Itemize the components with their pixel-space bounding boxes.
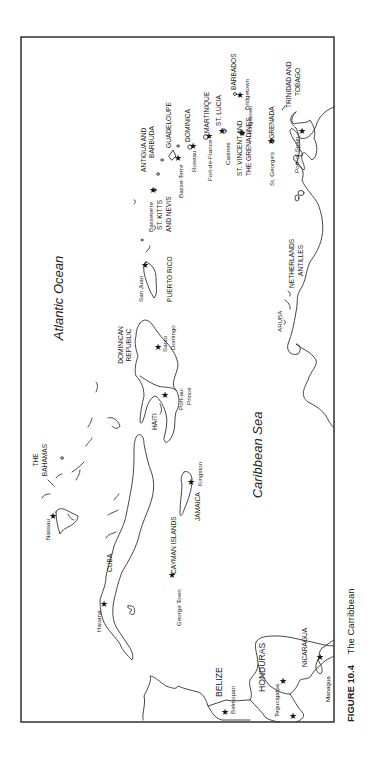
city-label-george-town: George Town (175, 589, 182, 626)
haiti-dr-border (140, 376, 176, 390)
island (56, 474, 62, 478)
island (298, 191, 304, 196)
country-label-puerto-rico: PUERTO RICO (166, 256, 173, 302)
figure-label: FIGURE 10.4 (345, 664, 356, 722)
city-label-managua: Managua (324, 676, 331, 702)
island (177, 145, 179, 147)
island (76, 470, 80, 480)
city-label-basseterre: Basseterre (147, 202, 154, 232)
country-label-guadeloupe: GUADELOUPE (165, 102, 172, 148)
star-icon: ★ (161, 390, 169, 400)
atlantic-ocean-label: Atlantic Ocean (51, 256, 66, 342)
country-label-honduras: HONDURAS (257, 643, 267, 692)
star-icon: ★ (187, 477, 195, 487)
country-label-st-kitts-2: AND NEVIS (165, 196, 172, 232)
island (157, 173, 160, 176)
island (96, 382, 98, 392)
country-label-st-kitts-1: ST. KITTS (156, 199, 163, 230)
island (146, 246, 150, 252)
country-label-dr-2: REPUBLIC (125, 328, 132, 361)
city-label-kingstown: Kingstown (246, 105, 253, 134)
star-icon: ★ (298, 126, 306, 136)
country-label-aruba: ARUBA (276, 310, 283, 332)
city-label-havana: Havana (95, 610, 102, 632)
country-label-grenada: GRENADA (268, 106, 275, 139)
city-label-belmopan: Belmopan (229, 686, 236, 714)
city-label-port-au-prince-2: Prince (185, 387, 192, 405)
island (72, 462, 84, 472)
country-label-bahamas-1: THE (32, 453, 39, 467)
country-label-dr-1: DOMINICAN (117, 326, 124, 364)
turks-and-caicos (108, 417, 120, 428)
figure-caption: FIGURE 10.4 The Carribbean (340, 589, 357, 723)
country-label-belize: BELIZE (214, 667, 224, 697)
island (141, 239, 143, 241)
cay (106, 532, 116, 538)
country-label-martinique: MARTINIQUE (203, 91, 211, 133)
aruba-island (284, 320, 286, 324)
country-label-trinidad-2: TOBAGO (294, 68, 301, 96)
city-label-bridgetown: Bridgetown (243, 78, 250, 110)
country-label-st-lucia: ST. LUCIA (215, 95, 222, 126)
star-icon: ★ (316, 652, 324, 662)
city-label-st-georges: St. George's (268, 152, 275, 186)
star-icon: ★ (279, 676, 287, 686)
city-label-castries: Castries (224, 142, 231, 165)
star-icon: ★ (100, 599, 108, 609)
gonave-island (160, 404, 162, 414)
star-icon: ★ (174, 153, 182, 163)
city-label-tegucigalpa: Tegucigalpa (273, 683, 280, 717)
country-label-haiti: HAITI (151, 413, 158, 430)
star-icon: ★ (221, 707, 229, 717)
island (61, 457, 64, 460)
country-label-barbados: BARBADOS (230, 53, 237, 90)
country-label-netherlands-antilles-1: NETHERLANDS (288, 238, 295, 288)
country-label-trinidad-1: TRINIDAD AND (285, 61, 292, 108)
cay (114, 494, 119, 500)
star-icon: ★ (289, 711, 297, 721)
country-label-nicaragua: NICARAGUA (301, 627, 308, 667)
country-label-dominica: DOMINICA (184, 108, 191, 142)
cuba-island (100, 434, 154, 660)
country-label-jamaica: JAMAICA (194, 492, 201, 521)
country-label-cuba: CUBA (106, 553, 113, 572)
country-label-netherlands-antilles-2: ANTILLES (297, 244, 304, 276)
island (295, 195, 299, 201)
country-label-bahamas-2: BAHAMAS (41, 443, 48, 476)
city-label-san-juan: San Juan (137, 275, 144, 302)
andros-island (56, 509, 78, 534)
star-icon: ★ (218, 126, 226, 136)
lake-nicaragua (316, 660, 322, 674)
city-label-port-of-spain: Port-of-Spain (293, 136, 300, 173)
figure-title: The Carribbean (345, 589, 356, 655)
caribbean-map: ★ ★ ★ ★ ★ ★ ★ ★ ★ ★ ★ ★ ★ ★ ★ ★ ★ ★ ★ ★ … (0, 0, 377, 761)
cay (108, 510, 118, 515)
city-label-santo-domingo-1: Santo (161, 335, 168, 352)
island (68, 514, 74, 520)
island (86, 438, 92, 446)
star-icon: ★ (149, 185, 157, 195)
isla-de-la-juventud (128, 606, 135, 615)
island (48, 480, 54, 486)
island (134, 200, 136, 204)
city-label-kingston: Kingston (196, 461, 203, 486)
city-label-fort-de-france: Fort-de-France (206, 139, 213, 181)
city-label-santo-domingo-2: Domingo (169, 325, 176, 350)
city-label-nassau: Nassau (44, 518, 51, 540)
netherlands-antilles-island (288, 291, 290, 296)
city-label-basse-terre: Basse-Terre (177, 164, 184, 198)
country-label-antigua-1: ANTIGUA AND (140, 127, 147, 172)
city-label-port-au-prince-1: Port-au- (177, 388, 184, 410)
country-label-cayman: CAYMAN ISLANDS (170, 516, 177, 574)
city-label-roseau: Roseau (190, 150, 197, 172)
star-icon: ★ (141, 260, 149, 270)
island (161, 159, 163, 161)
netherlands-antilles-island (285, 300, 290, 309)
country-label-antigua-2: BARBUDA (148, 126, 155, 158)
caribbean-sea-label: Caribbean Sea (250, 412, 265, 499)
country-label-st-vincent-1: ST. VINCENT AND (236, 120, 243, 176)
island (88, 418, 92, 427)
island (42, 494, 50, 498)
